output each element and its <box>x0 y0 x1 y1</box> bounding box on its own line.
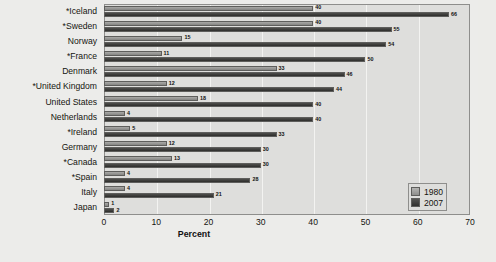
chart-legend: 1980 2007 <box>408 183 447 211</box>
bar-2007 <box>104 27 392 32</box>
category-label: *Canada <box>64 157 97 167</box>
category-label: Netherlands <box>51 112 97 122</box>
bar-group: 1150 <box>104 49 470 64</box>
bar-1980 <box>104 66 277 71</box>
page-edge-margin <box>478 0 496 262</box>
x-tick-10: 10 <box>152 217 162 227</box>
bar-value-label: 4 <box>127 171 130 176</box>
category-label: Germany <box>62 142 97 152</box>
bar-value-label: 12 <box>169 141 175 146</box>
bar-group: 1230 <box>104 140 470 155</box>
bar-group: 4066 <box>104 4 470 19</box>
bar-value-label: 1 <box>111 201 114 206</box>
bar-value-label: 30 <box>263 162 269 167</box>
category-label: Italy <box>81 187 97 197</box>
bar-value-label: 50 <box>367 57 373 62</box>
bar-2007 <box>104 208 114 213</box>
x-tick-40: 40 <box>308 217 318 227</box>
bar-2007 <box>104 117 313 122</box>
x-tick-0: 0 <box>102 217 107 227</box>
bar-value-label: 33 <box>279 66 285 71</box>
bar-1980 <box>104 81 167 86</box>
bar-1980 <box>104 156 172 161</box>
bar-1980 <box>104 141 167 146</box>
legend-item-2007[interactable]: 2007 <box>411 197 443 208</box>
bar-2007 <box>104 132 277 137</box>
bar-2007 <box>104 42 386 47</box>
category-label: *Spain <box>72 172 97 182</box>
bar-group: 533 <box>104 125 470 140</box>
bar-value-label: 40 <box>315 5 321 10</box>
x-tick-20: 20 <box>204 217 214 227</box>
bar-value-label: 40 <box>315 102 321 107</box>
bar-2007 <box>104 72 345 77</box>
bar-group: 1244 <box>104 79 470 94</box>
bar-1980 <box>104 6 313 11</box>
bar-group: 440 <box>104 110 470 125</box>
bar-2007 <box>104 102 313 107</box>
x-tick-60: 60 <box>413 217 423 227</box>
bar-value-label: 2 <box>116 208 119 213</box>
category-label: Norway <box>68 36 97 46</box>
category-label: *Iceland <box>66 6 97 16</box>
bar-value-label: 55 <box>394 27 400 32</box>
x-tick-70: 70 <box>465 217 475 227</box>
legend-label-1980: 1980 <box>424 187 443 197</box>
legend-swatch-2007-icon <box>411 198 420 207</box>
category-label: Japan <box>74 202 97 212</box>
bar-1980 <box>104 186 125 191</box>
x-tick-50: 50 <box>361 217 371 227</box>
bar-group: 1554 <box>104 34 470 49</box>
bar-value-label: 33 <box>279 132 285 137</box>
bar-1980 <box>104 96 198 101</box>
chart-figure: *Iceland*SwedenNorway*FranceDenmark*Unit… <box>0 0 496 262</box>
bar-value-label: 40 <box>315 20 321 25</box>
bar-group: 1330 <box>104 155 470 170</box>
category-label: United States <box>45 97 97 107</box>
bar-2007 <box>104 193 214 198</box>
bar-group: 1840 <box>104 94 470 109</box>
bar-1980 <box>104 51 162 56</box>
category-label: Denmark <box>62 66 97 76</box>
bar-1980 <box>104 21 313 26</box>
x-axis-title: Percent <box>104 229 284 239</box>
category-label: *United Kingdom <box>33 81 98 91</box>
bar-group: 3346 <box>104 64 470 79</box>
legend-label-2007: 2007 <box>424 198 443 208</box>
bar-value-label: 30 <box>263 147 269 152</box>
bar-group: 4055 <box>104 19 470 34</box>
bar-value-label: 18 <box>200 96 206 101</box>
category-label: *France <box>67 51 97 61</box>
bar-value-label: 11 <box>164 51 170 56</box>
bar-value-label: 21 <box>216 192 222 197</box>
bar-1980 <box>104 171 125 176</box>
category-label: *Ireland <box>67 127 97 137</box>
bar-1980 <box>104 111 125 116</box>
bar-1980 <box>104 202 109 207</box>
legend-swatch-1980-icon <box>411 187 420 196</box>
category-axis-labels: *Iceland*SwedenNorway*FranceDenmark*Unit… <box>0 4 100 215</box>
bar-value-label: 5 <box>132 126 135 131</box>
bar-value-label: 15 <box>184 35 190 40</box>
category-label: *Sweden <box>63 21 97 31</box>
bar-value-label: 28 <box>252 177 258 182</box>
x-tick-30: 30 <box>256 217 266 227</box>
bar-2007 <box>104 87 334 92</box>
bar-value-label: 4 <box>127 186 130 191</box>
bar-value-label: 4 <box>127 111 130 116</box>
bar-2007 <box>104 147 261 152</box>
bar-value-label: 46 <box>347 72 353 77</box>
bar-value-label: 13 <box>174 156 180 161</box>
bar-value-label: 44 <box>336 87 342 92</box>
legend-item-1980[interactable]: 1980 <box>411 186 443 197</box>
bar-value-label: 12 <box>169 81 175 86</box>
bar-2007 <box>104 178 250 183</box>
bar-value-label: 54 <box>388 42 394 47</box>
bar-value-label: 40 <box>315 117 321 122</box>
bar-2007 <box>104 163 261 168</box>
bar-2007 <box>104 12 449 17</box>
bar-2007 <box>104 57 365 62</box>
bar-value-label: 66 <box>451 12 457 17</box>
bar-1980 <box>104 36 182 41</box>
bar-1980 <box>104 126 130 131</box>
